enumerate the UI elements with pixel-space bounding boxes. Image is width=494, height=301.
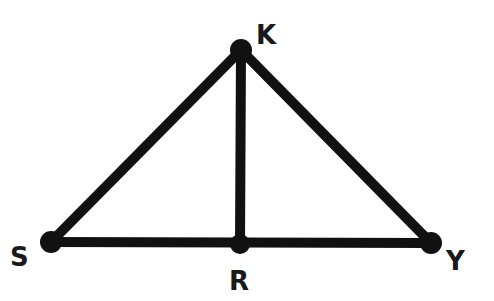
- point-s: [40, 231, 62, 253]
- segment-kr: [240, 50, 241, 244]
- point-r: [230, 234, 250, 254]
- segments: [51, 50, 431, 244]
- segment-ky: [241, 50, 431, 243]
- label-y: Y: [445, 246, 466, 276]
- label-k: K: [256, 20, 277, 50]
- label-r: R: [229, 266, 249, 296]
- label-s: S: [10, 242, 29, 272]
- segment-sk: [51, 50, 241, 242]
- point-k: [230, 39, 252, 61]
- triangle-diagram: K S R Y: [0, 0, 494, 301]
- point-y: [420, 232, 442, 254]
